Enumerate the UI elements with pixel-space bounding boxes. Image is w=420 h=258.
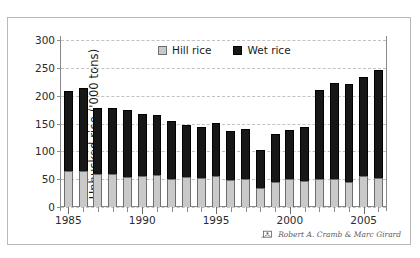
bar-2005	[359, 77, 368, 207]
legend-item-wet-rice: Wet rice	[233, 44, 290, 56]
x-tick-slot-1999	[268, 207, 283, 213]
legend-item-hill-rice: Hill rice	[158, 44, 211, 56]
bar-segment-hill-rice-1995	[212, 176, 221, 207]
x-tick-slot-1987	[91, 207, 106, 213]
x-tick-label-2005: 2005	[350, 215, 377, 226]
x-tick-slot-1997	[238, 207, 253, 213]
x-tick-slot-1996	[223, 207, 238, 213]
bar-slot-2005	[356, 40, 371, 207]
bar-1998	[256, 150, 265, 207]
x-tick-label-2000: 2000	[276, 215, 303, 226]
bar-segment-hill-rice-2001	[300, 181, 309, 207]
x-tick-slot-1989	[120, 207, 135, 213]
bar-slot-1992	[164, 40, 179, 207]
bar-1987	[93, 108, 102, 207]
bar-slot-1996	[223, 40, 238, 207]
bar-1999	[271, 134, 280, 207]
bar-segment-wet-rice-2003	[330, 83, 339, 179]
bar-series-group	[61, 40, 386, 207]
bar-segment-wet-rice-1990	[138, 114, 147, 176]
bar-slot-1994	[194, 40, 209, 207]
x-tick-mark-2005	[364, 207, 365, 214]
x-tick-label-1995: 1995	[203, 215, 230, 226]
bar-segment-hill-rice-1996	[226, 180, 235, 207]
x-tick-slot-2003	[327, 207, 342, 213]
bar-segment-hill-rice-1999	[271, 182, 280, 207]
bar-segment-wet-rice-2004	[345, 84, 354, 182]
x-tick-mark-1989	[127, 207, 128, 212]
bar-slot-1998	[253, 40, 268, 207]
x-tick-slot-1994	[194, 207, 209, 213]
y-tick-label-150: 150	[35, 118, 55, 129]
bar-slot-1999	[268, 40, 283, 207]
bar-segment-hill-rice-1991	[153, 175, 162, 207]
bar-1989	[123, 110, 132, 207]
x-tick-slot-2004	[342, 207, 357, 213]
y-tick-label-300: 300	[35, 35, 55, 46]
bar-segment-hill-rice-1992	[167, 179, 176, 207]
bar-slot-1993	[179, 40, 194, 207]
bar-segment-wet-rice-1998	[256, 150, 265, 188]
x-tick-slot-2005: 2005	[356, 207, 371, 213]
legend-label-wet-rice: Wet rice	[247, 44, 290, 56]
x-axis-ticks: 19851990199520002005	[61, 207, 386, 213]
bar-slot-2001	[297, 40, 312, 207]
wet-rice-swatch	[233, 46, 242, 55]
bar-segment-wet-rice-1991	[153, 115, 162, 176]
bar-1994	[197, 127, 206, 207]
bar-1993	[182, 125, 191, 207]
bar-slot-1997	[238, 40, 253, 207]
bar-segment-hill-rice-1989	[123, 177, 132, 207]
chart-figure: Unhusked rice ('000 tons) 05010015020025…	[7, 17, 411, 245]
x-tick-slot-1991	[150, 207, 165, 213]
bar-segment-hill-rice-2006	[374, 178, 383, 208]
x-tick-mark-1988	[113, 207, 114, 212]
bar-1990	[138, 114, 147, 207]
bar-slot-1987	[91, 40, 106, 207]
bar-1995	[212, 123, 221, 207]
x-tick-slot-1992	[164, 207, 179, 213]
bar-segment-hill-rice-1986	[79, 171, 88, 207]
chart-legend: Hill rice Wet rice	[158, 44, 291, 56]
bar-1988	[108, 108, 117, 207]
x-tick-mark-1993	[187, 207, 188, 212]
bar-1986	[79, 88, 88, 207]
bar-2006	[374, 70, 383, 207]
bar-segment-wet-rice-1994	[197, 127, 206, 178]
bar-segment-wet-rice-1992	[167, 121, 176, 178]
x-tick-mark-2003	[334, 207, 335, 212]
x-tick-mark-1996	[231, 207, 232, 212]
x-tick-slot-1986	[76, 207, 91, 213]
x-tick-mark-1995	[216, 207, 217, 214]
bar-segment-hill-rice-1985	[64, 171, 73, 207]
bar-2000	[285, 130, 294, 207]
bar-2001	[300, 127, 309, 207]
bar-2004	[345, 84, 354, 207]
bar-segment-wet-rice-1997	[241, 129, 250, 179]
x-tick-mark-1991	[157, 207, 158, 212]
bar-slot-1986	[76, 40, 91, 207]
bar-segment-hill-rice-1988	[108, 174, 117, 207]
bar-segment-hill-rice-2005	[359, 176, 368, 207]
bar-segment-hill-rice-2004	[345, 182, 354, 207]
attribution: Robert A. Cramb & Marc Girard	[261, 230, 401, 239]
bar-slot-1990	[135, 40, 150, 207]
y-tick-label-0: 0	[48, 202, 55, 213]
x-tick-slot-1988	[105, 207, 120, 213]
x-tick-mark-1986	[83, 207, 84, 212]
x-tick-mark-2004	[349, 207, 350, 212]
bar-segment-hill-rice-1994	[197, 178, 206, 207]
y-tick-label-100: 100	[35, 146, 55, 157]
bar-slot-1995	[209, 40, 224, 207]
logo-icon	[261, 230, 274, 239]
bar-slot-2000	[282, 40, 297, 207]
bar-segment-wet-rice-2001	[300, 127, 309, 180]
bar-1997	[241, 129, 250, 207]
y-tick-label-50: 50	[42, 174, 55, 185]
bar-segment-hill-rice-2003	[330, 179, 339, 207]
bar-slot-1989	[120, 40, 135, 207]
bar-slot-2006	[371, 40, 386, 207]
bar-segment-wet-rice-1999	[271, 134, 280, 182]
bar-2003	[330, 83, 339, 207]
legend-label-hill-rice: Hill rice	[172, 44, 211, 56]
